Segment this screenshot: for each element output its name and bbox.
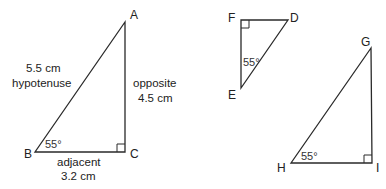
vertex-label-f: F	[228, 11, 235, 25]
vertex-label-h: H	[277, 161, 286, 175]
vertex-label-i: I	[376, 161, 379, 175]
hypotenuse-length: 5.5 cm	[26, 62, 61, 74]
right-angle-marker-c	[117, 144, 125, 152]
angle-label-b: 55°	[45, 138, 62, 150]
trig-diagram: A B C 55° 5.5 cm hypotenuse opposite 4.5…	[0, 0, 386, 189]
right-angle-marker-f	[241, 20, 249, 28]
vertex-label-e: E	[228, 88, 236, 102]
triangle-def: F D E 55°	[228, 11, 299, 102]
adjacent-name: adjacent	[57, 156, 101, 168]
vertex-label-a: A	[130, 8, 138, 22]
vertex-label-b: B	[24, 147, 32, 161]
triangle-ghi-outline	[291, 48, 372, 163]
triangle-ghi: G H I 55°	[277, 35, 379, 175]
angle-label-h: 55°	[301, 150, 318, 162]
triangle-def-outline	[241, 20, 288, 88]
opposite-length: 4.5 cm	[138, 92, 173, 104]
angle-label-e: 55°	[243, 56, 260, 68]
opposite-name: opposite	[133, 77, 176, 89]
vertex-label-c: C	[130, 147, 139, 161]
adjacent-length: 3.2 cm	[61, 170, 96, 182]
vertex-label-g: G	[361, 35, 370, 49]
vertex-label-d: D	[290, 11, 299, 25]
hypotenuse-name: hypotenuse	[12, 77, 71, 89]
right-angle-marker-i	[364, 155, 372, 163]
triangle-abc: A B C 55° 5.5 cm hypotenuse opposite 4.5…	[12, 8, 176, 182]
